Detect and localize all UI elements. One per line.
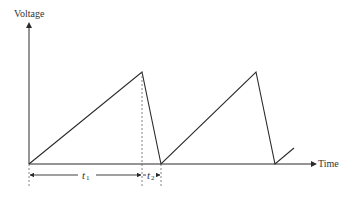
t2-label: t2 (147, 169, 155, 182)
t1-label: t1 (82, 169, 90, 182)
sawtooth-waveform (29, 72, 294, 164)
y-axis-label: Voltage (14, 8, 45, 19)
x-axis-label: Time (318, 158, 339, 169)
sawtooth-diagram: Voltage Time t1 t2 (0, 0, 354, 197)
